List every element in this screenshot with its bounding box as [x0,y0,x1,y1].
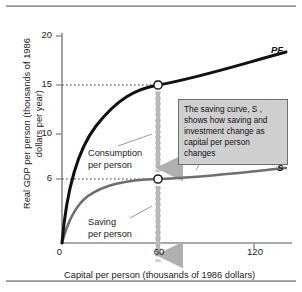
figure-container: 20 15 10 6 0 60 120 Real GDP per person … [0,0,302,292]
pf-curve-label: PF [271,44,283,55]
marker-pf-at-60 [154,81,162,89]
saving-label-line2: per person [88,229,132,241]
x-tick-label-60: 60 [148,247,170,258]
consumption-label-line2: per person [88,160,142,172]
y-axis-title: Real GDP per person (thousands of 1986 d… [22,28,45,220]
x-axis-title: Capital per person (thousands of 1986 do… [64,270,255,280]
saving-per-person-label: Saving per person [88,217,132,240]
x-tick-label-0: 0 [40,247,62,258]
consumption-leader-line [118,134,152,146]
consumption-per-person-label: Consumption per person [88,148,142,171]
saving-leader-line [130,206,152,218]
consumption-label-line1: Consumption [88,148,142,160]
x-tick-label-120: 120 [244,247,266,258]
saving-label-line1: Saving [88,217,132,229]
marker-s-at-60 [154,175,162,183]
annotation-note: The saving curve, S , shows how saving a… [178,99,288,165]
